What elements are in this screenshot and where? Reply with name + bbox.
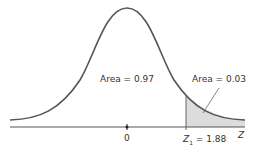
area-left-label: Area = 0.97 <box>100 74 154 84</box>
z1-value: = 1.88 <box>193 134 226 144</box>
z1-label: Z1 = 1.88 <box>183 134 226 146</box>
area-right-label: Area = 0.03 <box>192 74 246 84</box>
leader-line <box>203 88 219 113</box>
right-tail-area <box>186 95 245 127</box>
zero-label: 0 <box>124 133 130 143</box>
z-axis-label: Z <box>238 130 244 140</box>
bell-curve <box>10 8 245 120</box>
